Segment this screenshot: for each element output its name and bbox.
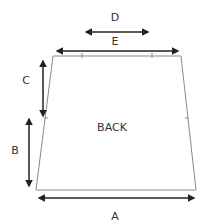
measurement-e-label: E [112,36,119,47]
measurement-c-label: C [22,75,30,86]
measurement-d-label: D [111,12,119,23]
measurement-a-label: A [111,211,119,222]
piece-label: BACK [97,122,127,133]
measurement-b-label: B [11,145,19,156]
garment-schematic: D E C B A BACK [0,0,208,224]
